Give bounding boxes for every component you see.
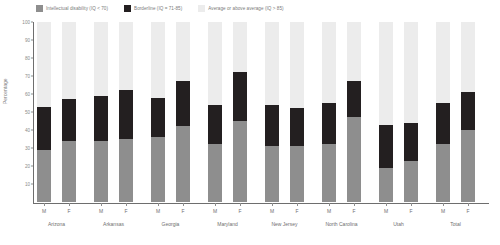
bar-stack[interactable]	[62, 22, 76, 202]
bar-stack[interactable]	[461, 22, 475, 202]
bar-segment-intellectual-disability	[436, 144, 450, 202]
bar-segment-intellectual-disability	[208, 144, 222, 202]
x-tick-label-sex: F	[466, 208, 469, 214]
bar-segment-average-or-above	[37, 22, 51, 107]
x-tick-mark	[272, 203, 273, 206]
x-group-label: Total	[450, 221, 461, 227]
x-tick-label-sex: F	[181, 208, 184, 214]
bar-segment-borderline	[94, 96, 108, 141]
legend-item-average-or-above[interactable]: Average or above average (IQ > 85)	[198, 5, 283, 12]
x-group-label: New Jersey	[271, 221, 297, 227]
bar-segment-intellectual-disability	[37, 150, 51, 202]
x-tick-mark	[329, 203, 330, 206]
bar-stack[interactable]	[94, 22, 108, 202]
x-tick-label-sex: F	[67, 208, 70, 214]
bar-segment-average-or-above	[94, 22, 108, 96]
bar-stack[interactable]	[176, 22, 190, 202]
bar-segment-average-or-above	[290, 22, 304, 108]
x-tick-mark	[183, 203, 184, 206]
bar-segment-intellectual-disability	[176, 126, 190, 202]
bar-segment-intellectual-disability	[119, 139, 133, 202]
bar-segment-borderline	[436, 103, 450, 144]
x-tick-mark	[354, 203, 355, 206]
bar-stack[interactable]	[265, 22, 279, 202]
x-tick-label-sex: F	[238, 208, 241, 214]
bar-stack[interactable]	[404, 22, 418, 202]
bar-segment-average-or-above	[176, 22, 190, 81]
legend-item-borderline[interactable]: Borderline (IQ = 71-85)	[124, 5, 182, 12]
legend-label-intellectual-disability: Intellectual disability (IQ < 70)	[46, 5, 108, 12]
x-tick-label-sex: F	[124, 208, 127, 214]
x-group-label: North Carolina	[325, 221, 357, 227]
y-tick-mark	[31, 76, 33, 77]
bar-segment-intellectual-disability	[94, 141, 108, 202]
bar-segment-average-or-above	[347, 22, 361, 81]
bar-segment-average-or-above	[265, 22, 279, 105]
x-tick-label-sex: F	[409, 208, 412, 214]
bar-stack[interactable]	[233, 22, 247, 202]
bar-segment-average-or-above	[436, 22, 450, 103]
x-tick-mark	[468, 203, 469, 206]
y-tick-mark	[31, 112, 33, 113]
legend-swatch-intellectual-disability	[36, 5, 43, 12]
bar-stack[interactable]	[37, 22, 51, 202]
bar-segment-average-or-above	[379, 22, 393, 125]
x-tick-mark	[443, 203, 444, 206]
x-tick-label-sex: M	[99, 208, 103, 214]
bar-segment-intellectual-disability	[347, 117, 361, 202]
bar-segment-intellectual-disability	[62, 141, 76, 202]
bar-segment-average-or-above	[233, 22, 247, 72]
legend-swatch-average-or-above	[198, 5, 205, 12]
plot-area: 102030405060708090100	[33, 22, 488, 202]
bar-segment-average-or-above	[208, 22, 222, 105]
x-group-label: Maryland	[217, 221, 238, 227]
bar-stack[interactable]	[436, 22, 450, 202]
y-tick-mark	[31, 166, 33, 167]
bar-segment-average-or-above	[119, 22, 133, 90]
y-tick-mark	[31, 130, 33, 131]
bar-stack[interactable]	[119, 22, 133, 202]
bar-segment-intellectual-disability	[379, 168, 393, 202]
bar-stack[interactable]	[347, 22, 361, 202]
chart-root: Intellectual disability (IQ < 70) Border…	[0, 0, 500, 245]
bar-segment-borderline	[208, 105, 222, 145]
x-axis-labels: MFMFMFMFMFMFMFMFArizonaArkansasGeorgiaMa…	[0, 203, 500, 245]
x-group-label: Georgia	[162, 221, 180, 227]
x-tick-label-sex: M	[156, 208, 160, 214]
bar-segment-borderline	[37, 107, 51, 150]
bar-segment-borderline	[379, 125, 393, 168]
bar-segment-average-or-above	[151, 22, 165, 98]
bar-segment-borderline	[265, 105, 279, 146]
x-group-label: Arizona	[48, 221, 65, 227]
bar-segment-borderline	[176, 81, 190, 126]
y-axis-title: Percentage	[2, 78, 8, 104]
x-tick-mark	[215, 203, 216, 206]
bar-segment-average-or-above	[322, 22, 336, 103]
bar-segment-borderline	[322, 103, 336, 144]
bar-segment-intellectual-disability	[461, 130, 475, 202]
bar-stack[interactable]	[379, 22, 393, 202]
bar-segment-borderline	[62, 99, 76, 140]
x-tick-mark	[386, 203, 387, 206]
bar-segment-intellectual-disability	[290, 146, 304, 202]
bar-segment-average-or-above	[62, 22, 76, 99]
x-group-label: Arkansas	[103, 221, 124, 227]
bar-segment-borderline	[461, 92, 475, 130]
bar-stack[interactable]	[290, 22, 304, 202]
x-tick-mark	[158, 203, 159, 206]
y-tick-mark	[31, 184, 33, 185]
bar-stack[interactable]	[322, 22, 336, 202]
legend-item-intellectual-disability[interactable]: Intellectual disability (IQ < 70)	[36, 5, 108, 12]
bar-stack[interactable]	[208, 22, 222, 202]
x-tick-label-sex: M	[327, 208, 331, 214]
x-tick-label-sex: M	[42, 208, 46, 214]
chart-legend: Intellectual disability (IQ < 70) Border…	[36, 2, 300, 14]
x-group-label: Utah	[393, 221, 404, 227]
bar-segment-average-or-above	[461, 22, 475, 92]
x-tick-mark	[240, 203, 241, 206]
x-tick-mark	[411, 203, 412, 206]
x-tick-mark	[297, 203, 298, 206]
legend-swatch-borderline	[124, 5, 131, 12]
bar-stack[interactable]	[151, 22, 165, 202]
y-tick-mark	[31, 40, 33, 41]
